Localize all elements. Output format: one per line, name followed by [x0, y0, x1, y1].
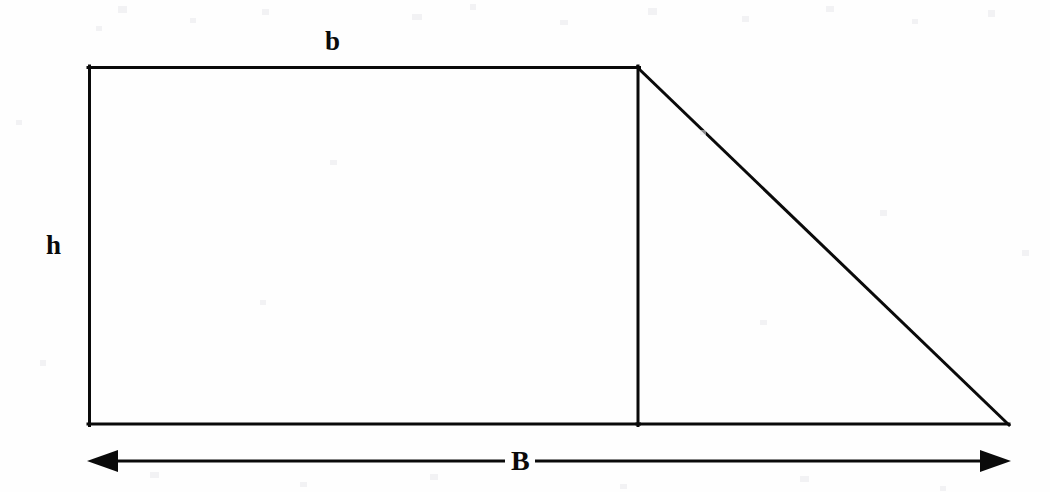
geometry-drawing	[0, 0, 1050, 492]
rectangle-shape	[88, 66, 640, 426]
triangle-hypotenuse	[637, 67, 1009, 425]
dimension-arrow-B	[87, 450, 1011, 472]
label-height-h: h	[46, 232, 61, 259]
arrowhead-right-icon	[980, 450, 1011, 472]
figure-canvas: b h B	[0, 0, 1050, 492]
arrowhead-left-icon	[87, 450, 118, 472]
triangle-shape	[637, 67, 1009, 425]
label-top-width-b: b	[325, 28, 340, 55]
label-total-width-B: B	[507, 447, 534, 475]
